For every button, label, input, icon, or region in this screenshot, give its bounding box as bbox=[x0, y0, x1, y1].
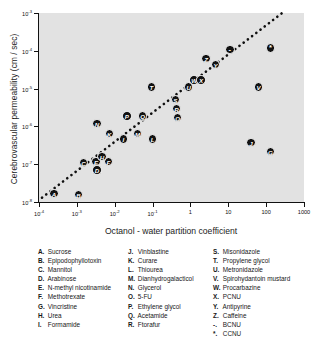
x-axis-tick-label: 100 bbox=[261, 209, 270, 215]
legend-item-key: I. bbox=[38, 320, 46, 329]
x-axis-tick bbox=[228, 202, 229, 207]
data-point-urea: H bbox=[97, 152, 106, 161]
legend-item: O. 5-FU bbox=[128, 292, 216, 301]
legend-item-label: Acetamide bbox=[136, 312, 168, 319]
legend-item-label: Sucrose bbox=[46, 248, 71, 255]
data-point-propylene-glycol: T bbox=[147, 82, 156, 91]
data-point-arabinose: D bbox=[92, 165, 101, 174]
legend-item-key: U. bbox=[213, 265, 221, 274]
y-axis-tick-label: 10-4 bbox=[22, 47, 32, 55]
y-axis-tick-label: 10-8 bbox=[22, 198, 32, 206]
x-axis-tick-label: 10 bbox=[225, 209, 231, 215]
legend-item-label: Caffeine bbox=[221, 312, 246, 319]
legend-item: *. CCNU bbox=[213, 329, 321, 338]
data-point-ethylene-glycol: P bbox=[122, 111, 131, 120]
legend-item: Z. Caffeine bbox=[213, 311, 321, 320]
x-axis-tick-label: 10-4 bbox=[34, 209, 44, 217]
data-point-ccnu: * bbox=[266, 43, 275, 52]
legend-item: Y. Antipyrine bbox=[213, 302, 321, 311]
data-point-bcnu: - bbox=[225, 45, 234, 54]
x-axis-tick-label: 1 bbox=[189, 209, 192, 215]
data-point-sucrose: A bbox=[49, 189, 58, 198]
legend-item: J. Vinblastine bbox=[128, 247, 216, 256]
legend-column: S. MisonidazoleT. Propylene glycolU. Met… bbox=[213, 247, 321, 338]
y-axis-tick-label: 10-6 bbox=[22, 122, 32, 130]
data-point-curare: K bbox=[105, 129, 114, 138]
legend-item-label: Curare bbox=[136, 257, 157, 264]
legend-item-key: E. bbox=[38, 283, 46, 292]
x-axis-tick-label: 1000 bbox=[298, 209, 310, 215]
x-axis-tick-label: 10-2 bbox=[110, 209, 120, 217]
legend-item: G. Vincristine bbox=[38, 302, 130, 311]
legend-column: J. VinblastineK. CurareL. ThioureaM. Dia… bbox=[128, 247, 216, 329]
x-axis-tick bbox=[39, 202, 40, 207]
legend-item-key: *. bbox=[213, 329, 221, 338]
y-axis-tick-label: 10-5 bbox=[22, 85, 32, 93]
legend-item-label: Propylene glycol bbox=[221, 257, 270, 264]
legend-item-label: PCNU bbox=[221, 293, 241, 300]
legend-item: S. Misonidazole bbox=[213, 247, 321, 256]
legend-item-label: Urea bbox=[46, 312, 62, 319]
x-axis-title: Octanol - water partition coefficient bbox=[38, 226, 304, 236]
legend-item-key: N. bbox=[128, 283, 136, 292]
legend-item-label: Glycerol bbox=[136, 284, 161, 291]
legend-item-key: X. bbox=[213, 292, 221, 301]
legend-item-key: B. bbox=[38, 256, 46, 265]
legend-item-key: G. bbox=[38, 302, 46, 311]
legend-item-label: Misonidazole bbox=[221, 248, 260, 255]
legend-item-label: N-methyl nicotinamide bbox=[46, 284, 111, 291]
legend-item-label: Ethylene glycol bbox=[136, 303, 181, 310]
legend-item-key: H. bbox=[38, 311, 46, 320]
legend-item-key: C. bbox=[38, 265, 46, 274]
x-axis-tick bbox=[190, 202, 191, 207]
y-axis-tick bbox=[34, 126, 39, 127]
legend-item-key: A. bbox=[38, 247, 46, 256]
legend-item: F. Methotrexate bbox=[38, 292, 130, 301]
legend-item-key: S. bbox=[213, 247, 221, 256]
legend-item: C. Mannitol bbox=[38, 265, 130, 274]
y-axis-tick bbox=[34, 51, 39, 52]
legend-item-key: -. bbox=[213, 320, 221, 329]
legend-item: E. N-methyl nicotinamide bbox=[38, 283, 130, 292]
x-axis-tick bbox=[153, 202, 154, 207]
data-point-acetamide: Q bbox=[138, 111, 147, 120]
legend-item: M. Dianhydrogalacticol bbox=[128, 274, 216, 283]
legend-item-label: 5-FU bbox=[136, 293, 152, 300]
legend-item-key: T. bbox=[213, 256, 221, 265]
x-axis-tick bbox=[304, 202, 305, 207]
legend-item: R. Ftorafur bbox=[128, 320, 216, 329]
figure: Cerebrovascular permeability (cm / sec) … bbox=[0, 0, 323, 340]
x-axis-tick-label: 10-3 bbox=[72, 209, 82, 217]
data-point-pcnu: X bbox=[196, 75, 205, 84]
x-axis-tick-label: 10-1 bbox=[148, 209, 158, 217]
data-point-epipodophyllotoxin: B bbox=[74, 190, 83, 199]
legend-item-label: Procarbazine bbox=[221, 284, 260, 291]
legend-item: A. Sucrose bbox=[38, 247, 130, 256]
legend-item-key: Y. bbox=[213, 302, 221, 311]
legend-item-key: Z. bbox=[213, 311, 221, 320]
legend: A. SucroseB. EpipodophyllotoxinC. Mannit… bbox=[0, 247, 323, 340]
legend-item: H. Urea bbox=[38, 311, 130, 320]
legend-item-key: J. bbox=[128, 247, 136, 256]
legend-column: A. SucroseB. EpipodophyllotoxinC. Mannit… bbox=[38, 247, 130, 329]
legend-item-label: Mannitol bbox=[46, 266, 72, 273]
data-point-formamide: I bbox=[119, 134, 128, 143]
legend-item-key: R. bbox=[128, 320, 136, 329]
legend-item-label: Ftorafur bbox=[136, 321, 160, 328]
legend-item: I. Formamide bbox=[38, 320, 130, 329]
legend-item-key: Q. bbox=[128, 311, 136, 320]
legend-item-key: D. bbox=[38, 274, 46, 283]
legend-item-key: O. bbox=[128, 292, 136, 301]
legend-item-label: Antipyrine bbox=[221, 303, 251, 310]
legend-item-key: M. bbox=[128, 274, 136, 283]
plot-area: 10-310-410-510-610-710-810-410-310-210-1… bbox=[38, 13, 304, 203]
y-axis-tick bbox=[34, 13, 39, 14]
legend-item: D. Arabinose bbox=[38, 274, 130, 283]
legend-item: B. Epipodophyllotoxin bbox=[38, 256, 130, 265]
legend-item: P. Ethylene glycol bbox=[128, 302, 216, 311]
legend-item-label: Spirohydantoin mustard bbox=[221, 275, 290, 282]
legend-item-label: Dianhydrogalacticol bbox=[136, 275, 194, 282]
legend-item: U. Metronidazole bbox=[213, 265, 321, 274]
legend-item-key: W. bbox=[213, 283, 221, 292]
legend-item-key: P. bbox=[128, 302, 136, 311]
